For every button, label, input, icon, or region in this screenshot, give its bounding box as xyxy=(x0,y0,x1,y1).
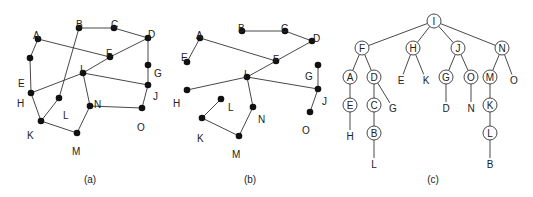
tree-node-label-C: C xyxy=(370,100,377,111)
tree-node-label-L: L xyxy=(487,128,493,139)
tree-leaf-label-Kleaf: K xyxy=(423,75,430,86)
tree-node-label-B: B xyxy=(371,128,378,139)
tree-edge-H-Kleaf xyxy=(416,54,424,74)
panel-c-sink-tree: IFHJNADEKGOMOECGDNKHBLLB xyxy=(343,14,518,170)
vertex-label-M: M xyxy=(232,149,240,160)
tree-node-label-A: A xyxy=(347,72,354,83)
vertex-label-E: E xyxy=(181,52,188,63)
vertex-label-C: C xyxy=(111,19,118,30)
tree-leaf-label-Hleaf: H xyxy=(346,131,353,142)
vertex-label-J: J xyxy=(153,91,158,102)
edge-K-M xyxy=(41,121,77,133)
vertex-label-L: L xyxy=(228,102,234,113)
vertex-label-C: C xyxy=(281,23,288,34)
tree-edge-F-A xyxy=(353,54,360,70)
tree-leaf-label-Bleaf: B xyxy=(487,159,494,170)
edge-N-M xyxy=(239,107,253,136)
vertex-label-N: N xyxy=(94,99,101,110)
vertex-label-K: K xyxy=(197,133,204,144)
vertex-M xyxy=(74,130,81,137)
vertex-J xyxy=(145,82,152,89)
vertex-N xyxy=(250,104,257,111)
figure: ABCDEFGHIJKLMNO ABCDEFGHIJKLMNO IFHJNADE… xyxy=(0,0,533,197)
edge-I-H xyxy=(187,77,247,90)
tree-node-label-K: K xyxy=(487,100,494,111)
edge-M-N xyxy=(77,106,90,133)
edge-H-K xyxy=(31,93,41,121)
vertex-label-B: B xyxy=(238,23,245,34)
tree-edge-I-J xyxy=(439,26,454,43)
tree-leaf-label-Nleaf: N xyxy=(467,103,474,114)
tree-node-label-F: F xyxy=(359,43,365,54)
tree-edge-H-Eleaf xyxy=(403,55,410,75)
edge-A-F xyxy=(38,39,110,57)
edge-I-H xyxy=(31,73,83,93)
edge-D-C xyxy=(114,28,148,38)
vertex-label-L: L xyxy=(63,110,69,121)
tree-leaf-label-Lleaf: L xyxy=(371,159,377,170)
vertex-label-F: F xyxy=(273,54,279,65)
vertex-label-O: O xyxy=(137,122,145,133)
tree-edge-N-Oleaf xyxy=(504,55,511,75)
vertex-label-J: J xyxy=(322,96,327,107)
tree-node-label-J: J xyxy=(456,43,461,54)
tree-edge-J-O xyxy=(461,54,468,70)
edge-F-I xyxy=(83,57,110,73)
tree-leaf-label-Dleaf: D xyxy=(442,103,449,114)
vertex-O xyxy=(307,109,314,116)
tree-leaf-label-Eleaf: E xyxy=(398,75,405,86)
edge-B-L xyxy=(59,28,79,98)
vertex-label-N: N xyxy=(258,114,265,125)
vertex-label-O: O xyxy=(302,125,310,136)
panel-b-spanning-tree: ABCDEFGHIJKLMNO xyxy=(173,23,327,160)
vertex-H xyxy=(28,90,35,97)
edge-C-D xyxy=(285,31,312,41)
vertex-J xyxy=(315,86,322,93)
vertex-L xyxy=(56,95,63,102)
vertex-N xyxy=(87,103,94,110)
vertex-label-H: H xyxy=(173,98,180,109)
tree-node-label-G: G xyxy=(442,72,450,83)
vertex-label-A: A xyxy=(196,30,203,41)
caption-b: (b) xyxy=(244,174,256,185)
edge-K-L xyxy=(202,99,221,118)
vertex-label-H: H xyxy=(17,98,24,109)
tree-node-label-I: I xyxy=(433,16,436,27)
tree-node-label-O: O xyxy=(467,72,475,83)
tree-node-label-E: E xyxy=(347,100,354,111)
vertex-L xyxy=(218,96,225,103)
vertex-label-D: D xyxy=(313,33,320,44)
vertex-label-M: M xyxy=(72,146,80,157)
vertex-label-A: A xyxy=(33,30,40,41)
edge-F-I xyxy=(247,61,276,77)
vertex-G xyxy=(145,62,152,69)
panel-a-graph: ABCDEFGHIJKLMNO xyxy=(17,19,162,157)
vertex-label-K: K xyxy=(27,130,34,141)
edge-J-O xyxy=(310,89,318,112)
tree-node-label-N: N xyxy=(498,43,505,54)
edge-O-J xyxy=(142,85,148,108)
tree-leaf-label-Oleaf: O xyxy=(510,75,518,86)
edge-F-D xyxy=(110,38,148,57)
edge-A-E xyxy=(187,38,200,62)
vertex-G xyxy=(315,62,322,69)
tree-leaf-label-Gleaf: G xyxy=(389,103,397,114)
tree-node-label-H: H xyxy=(409,43,416,54)
edge-E-H xyxy=(30,58,31,93)
caption-c: (c) xyxy=(427,174,439,185)
tree-edge-I-N xyxy=(441,24,496,46)
edge-A-F xyxy=(200,38,276,61)
tree-edge-I-H xyxy=(417,27,429,43)
vertex-label-E: E xyxy=(18,78,25,89)
vertex-label-G: G xyxy=(305,71,313,82)
edge-L-K xyxy=(41,98,59,121)
edge-I-J xyxy=(83,73,148,85)
tree-edge-N-M xyxy=(493,54,500,70)
edge-M-K xyxy=(202,118,239,136)
vertex-H xyxy=(184,87,191,94)
edge-N-I xyxy=(83,73,90,106)
vertex-label-I: I xyxy=(244,69,247,80)
vertex-label-B: B xyxy=(76,19,83,30)
vertex-E xyxy=(27,55,34,62)
tree-edge-J-G xyxy=(449,54,456,70)
